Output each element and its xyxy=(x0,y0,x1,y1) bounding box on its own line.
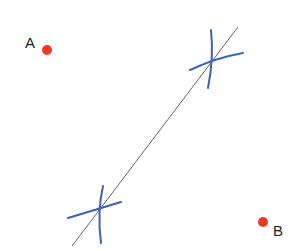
lower-arc-intersection xyxy=(68,186,121,243)
point-b-label: B xyxy=(273,222,283,239)
point-b xyxy=(258,217,268,227)
point-a-label: A xyxy=(25,34,35,51)
lower-vertical-arc xyxy=(99,186,103,243)
construction-diagram: A B xyxy=(0,0,295,251)
upper-vertical-arc xyxy=(208,30,212,88)
point-a xyxy=(42,45,52,55)
